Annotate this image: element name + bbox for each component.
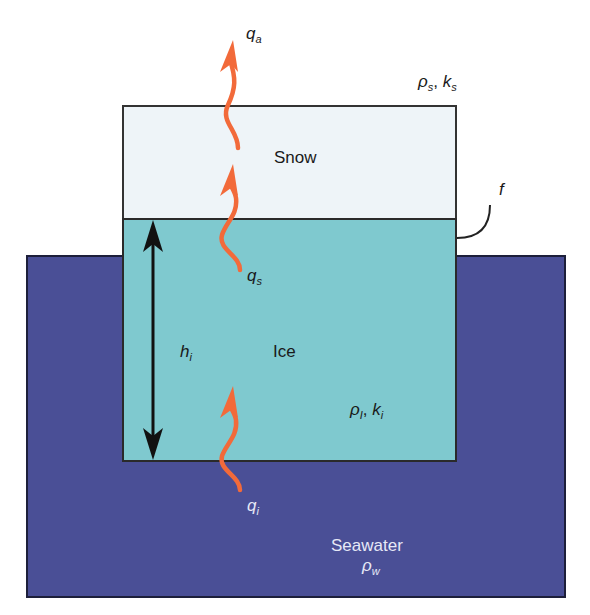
ice-label: Ice [273, 342, 296, 362]
diagram-overlay [0, 0, 590, 615]
flux-arrow-qi-icon [220, 386, 240, 490]
flux-label-qs: qs [247, 266, 262, 287]
seawater-density-label: ρw [362, 556, 380, 577]
seawater-label: Seawater [331, 536, 403, 556]
ice-thickness-label: hi [180, 342, 192, 363]
flux-label-qi: qi [247, 496, 259, 517]
ice-properties-label: ρI, ki [350, 400, 383, 421]
ice-thickness-arrow-icon [143, 220, 163, 460]
freeboard-leader-icon [457, 205, 490, 238]
flux-arrow-qa-icon [220, 40, 238, 148]
flux-label-qa: qa [246, 24, 262, 45]
freeboard-label: f [499, 180, 504, 200]
flux-arrow-qs-icon [220, 164, 240, 270]
snow-properties-label: ρs, ks [418, 72, 457, 93]
snow-label: Snow [274, 148, 317, 168]
